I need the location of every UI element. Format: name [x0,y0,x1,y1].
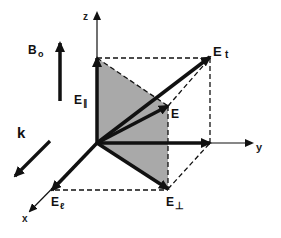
svg-text:E: E [166,195,174,209]
svg-text:B: B [28,43,37,57]
svg-text:∥: ∥ [83,98,88,109]
e-total-label: E t [213,44,229,60]
k-label: k [17,124,26,141]
e-parallel-label: E ∥ [74,93,88,109]
svg-text:o: o [38,49,44,59]
svg-text:E: E [51,195,59,209]
e-longitudinal-label: E ℓ [51,195,65,211]
x-axis-label: x [22,213,28,224]
e-label: E [171,107,179,121]
svg-text:E: E [213,44,222,59]
z-axis-label: z [83,11,88,22]
svg-text:t: t [225,49,229,60]
svg-text:⊥: ⊥ [175,200,184,211]
k-arrow [15,141,50,176]
e-longitudinal-vector [52,143,97,190]
y-axis-label: y [256,141,263,153]
svg-text:E: E [74,93,82,107]
vector-diagram: z y x B o k E ∥ E t E E ⊥ E ℓ [0,0,281,238]
svg-text:ℓ: ℓ [60,201,65,211]
b0-label: B o [28,43,44,59]
e-perp-label: E ⊥ [166,195,184,211]
